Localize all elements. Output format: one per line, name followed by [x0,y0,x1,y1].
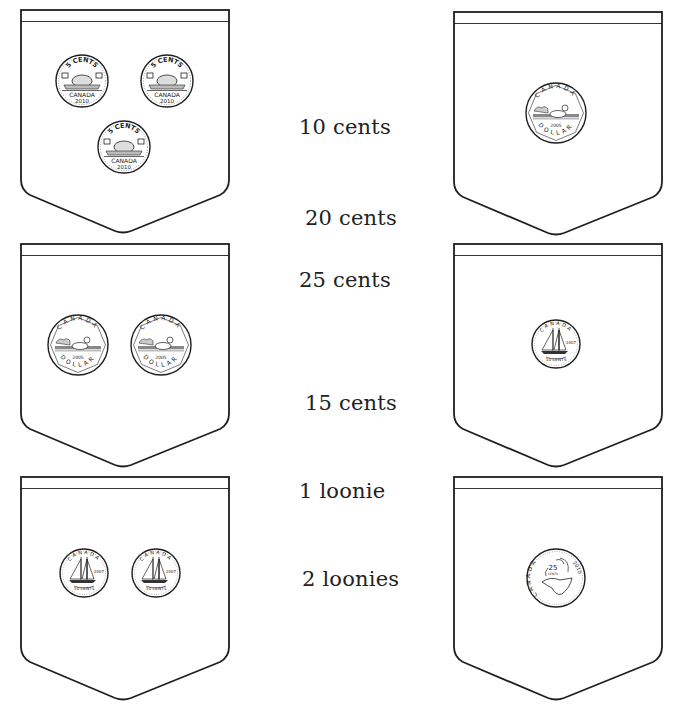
answer-choice-10-cents: 10 cents [299,115,391,139]
loonie-coin-icon [48,314,108,375]
dime-coin-icon [132,549,180,597]
answer-choice-15-cents: 15 cents [305,391,397,415]
pocket-bottom-left [21,477,229,700]
answer-choice-1-loonie: 1 loonie [299,479,385,503]
pockets-drawing: 5 CENTS CANADA 2010 CANADA DOLLAR [0,0,680,710]
answer-choice-25-cents: 25 cents [299,268,391,292]
dime-coin-icon [60,549,108,597]
loonie-coin-icon [526,82,586,143]
answer-choice-20-cents: 20 cents [305,206,397,230]
answer-choice-2-loonies: 2 loonies [302,567,399,591]
coin-matching-worksheet: 5 CENTS CANADA 2010 CANADA DOLLAR [0,0,680,710]
nickel-coin-icon [141,55,193,107]
nickel-coin-icon [98,121,150,173]
nickel-coin-icon [56,55,108,107]
dime-coin-icon [532,320,580,368]
loonie-coin-icon [131,314,191,375]
